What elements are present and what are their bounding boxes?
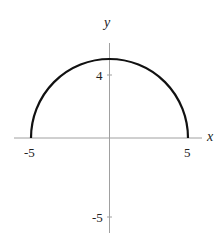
graph: y x -5 5 4 -5 xyxy=(0,0,224,233)
y-tick-label-4: 4 xyxy=(96,68,103,83)
x-tick-label-5: 5 xyxy=(184,145,191,160)
y-axis-label: y xyxy=(102,15,111,30)
x-tick-label-neg5: -5 xyxy=(24,145,35,160)
x-axis-label: x xyxy=(206,129,214,144)
y-tick-label-neg5: -5 xyxy=(92,210,103,225)
